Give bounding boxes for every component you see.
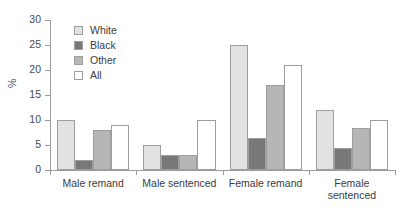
bar-black-female-sentenced <box>334 148 352 171</box>
bar-all-male-remand <box>111 125 129 170</box>
legend-label: Black <box>90 40 116 51</box>
legend-item-black: Black <box>74 38 117 53</box>
x-axis-separator <box>309 170 310 175</box>
y-tick-label: 20 <box>29 63 41 76</box>
legend-label: Other <box>90 55 116 66</box>
x-axis-separator <box>395 170 396 175</box>
x-axis-separator <box>136 170 137 175</box>
legend-item-other: Other <box>74 53 117 68</box>
bar-black-male-remand <box>75 160 93 170</box>
bar-white-female-sentenced <box>316 110 334 170</box>
y-tick-mark <box>45 70 50 71</box>
bar-other-male-sentenced <box>179 155 197 170</box>
y-tick-mark <box>45 20 50 21</box>
y-tick-label: 0 <box>35 163 41 176</box>
x-axis-label-male-remand: Male remand <box>50 177 136 189</box>
legend-item-white: White <box>74 23 117 38</box>
bar-white-male-sentenced <box>143 145 161 170</box>
x-axis-label-male-sentenced: Male sentenced <box>136 177 222 189</box>
y-tick-label: 15 <box>29 88 41 101</box>
x-axis-label-female-sentenced: Female sentenced <box>309 177 395 201</box>
y-tick-label: 25 <box>29 38 41 51</box>
legend-swatch-other-icon <box>74 56 83 65</box>
y-axis-title: % <box>6 79 18 88</box>
bar-black-female-remand <box>248 138 266 171</box>
y-tick-label: 30 <box>29 13 41 26</box>
bar-chart: % 051015202530 Male remandMale sentenced… <box>0 0 412 218</box>
bar-other-male-remand <box>93 130 111 170</box>
bar-black-male-sentenced <box>161 155 179 170</box>
bar-all-female-remand <box>284 65 302 170</box>
chart-legend: WhiteBlackOtherAll <box>74 23 117 83</box>
y-tick-label: 5 <box>35 138 41 151</box>
bar-white-female-remand <box>230 45 248 170</box>
bar-all-male-sentenced <box>197 120 215 170</box>
legend-swatch-white-icon <box>74 26 83 35</box>
bar-all-female-sentenced <box>370 120 388 170</box>
y-tick-label: 10 <box>29 113 41 126</box>
x-axis-separator <box>50 170 51 175</box>
y-tick-mark <box>45 145 50 146</box>
x-axis-label-female-remand: Female remand <box>223 177 309 189</box>
legend-swatch-all-icon <box>74 71 83 80</box>
legend-label: White <box>90 25 117 36</box>
legend-label: All <box>90 70 102 81</box>
y-tick-mark <box>45 45 50 46</box>
bar-other-female-sentenced <box>352 128 370 171</box>
bar-other-female-remand <box>266 85 284 170</box>
bar-white-male-remand <box>57 120 75 170</box>
y-tick-mark <box>45 95 50 96</box>
legend-item-all: All <box>74 68 117 83</box>
x-axis-separator <box>223 170 224 175</box>
legend-swatch-black-icon <box>74 41 83 50</box>
y-axis-line <box>50 20 51 171</box>
y-tick-mark <box>45 120 50 121</box>
